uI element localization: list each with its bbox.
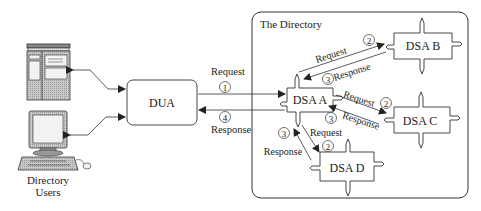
step-badge-c-2: 2 — [384, 99, 389, 109]
dsa-b-label: DSA B — [406, 39, 440, 53]
dua-box: DUA — [127, 80, 197, 125]
dsa-d-label: DSA D — [329, 161, 364, 175]
dsa-a-label: DSA A — [293, 93, 328, 107]
response-label-b: Response — [332, 60, 372, 82]
dsa-a-b-links: Request 2 3 Response — [299, 35, 386, 85]
server-icon — [27, 44, 70, 100]
dsa-c-label: DSA C — [403, 114, 437, 128]
step-badge-d-3: 3 — [282, 129, 287, 139]
step-badge-4: 4 — [223, 113, 228, 123]
directory-diagram: The Directory Directory Users DUA — [0, 0, 481, 211]
step-badge-b-2: 2 — [367, 36, 372, 46]
users-label-line1: Directory — [27, 174, 70, 186]
users-label-line2: Users — [35, 186, 60, 198]
directory-label: The Directory — [260, 18, 322, 30]
dua-dsa-a-links: Request 1 4 Response — [198, 66, 285, 135]
request-label-c: Request — [342, 88, 376, 108]
response-label-c: Response — [341, 110, 381, 132]
request-label-d: Request — [310, 127, 342, 138]
workstation-icon — [18, 111, 91, 170]
dsa-c-node: DSA C — [384, 92, 460, 148]
step-badge-d-2: 2 — [326, 142, 331, 152]
dsa-b-node: DSA B — [386, 18, 462, 74]
dsa-d-node: DSA D — [310, 139, 384, 196]
step-badge-1: 1 — [223, 83, 228, 93]
step-badge-c-3: 3 — [329, 114, 334, 124]
step-badge-b-3: 3 — [326, 75, 331, 85]
response-label-4: Response — [211, 124, 252, 135]
dsa-a-c-links: Request 2 3 Response — [326, 88, 392, 132]
response-label-d: Response — [264, 146, 303, 157]
request-label-1: Request — [211, 66, 245, 77]
user-dua-links — [70, 70, 125, 135]
dua-label: DUA — [149, 96, 175, 110]
